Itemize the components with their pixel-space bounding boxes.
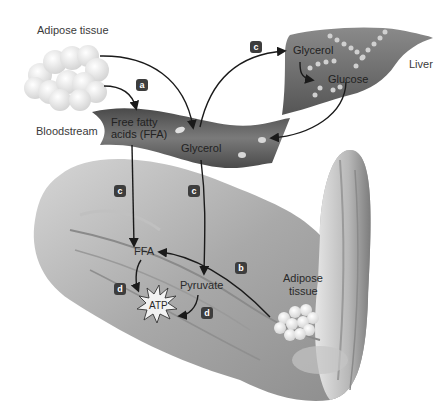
liver	[282, 28, 433, 115]
label-adipose-arm-line2: tissue	[289, 285, 318, 297]
label-glycerol-liver: Glycerol	[293, 44, 333, 56]
label-atp: ATP	[149, 300, 168, 312]
label-liver: Liver	[409, 58, 433, 70]
badge-step-d-pyruvate: d	[201, 307, 213, 319]
adipose-tissue-cluster-top	[24, 45, 109, 111]
label-free-fatty-acids-line1: Free fatty	[111, 116, 157, 128]
badge-step-c-ffa: c	[114, 185, 126, 197]
label-adipose-tissue-top: Adipose tissue	[37, 24, 109, 36]
label-pyruvate: Pyruvate	[180, 279, 223, 291]
badge-step-d-ffa: d	[114, 283, 126, 295]
label-bloodstream: Bloodstream	[36, 125, 98, 137]
badge-step-c-liver: c	[250, 41, 262, 53]
badge-step-b: b	[235, 262, 247, 274]
label-glucose: Glucose	[328, 73, 368, 85]
fat-metabolism-diagram	[0, 0, 447, 406]
label-adipose-arm-line1: Adipose	[283, 272, 323, 284]
badge-step-c-glycerol: c	[188, 185, 200, 197]
label-ffa-muscle: FFA	[134, 245, 154, 257]
label-glycerol-blood: Glycerol	[181, 142, 221, 154]
badge-step-a: a	[136, 79, 148, 91]
label-free-fatty-acids-line2: acids (FFA)	[111, 128, 167, 140]
